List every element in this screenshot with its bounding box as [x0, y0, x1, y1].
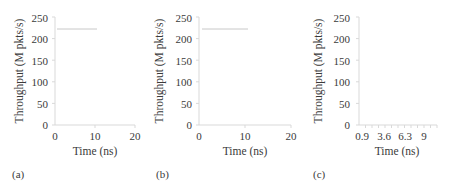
panel-label-c: (c)	[313, 168, 326, 181]
svg-text:250: 250	[32, 12, 49, 24]
svg-text:100: 100	[334, 76, 351, 88]
svg-text:250: 250	[176, 12, 193, 24]
svg-text:200: 200	[176, 33, 193, 45]
panel-a: Throughput (M pkts/s) 0 50 100 150 200 2…	[0, 0, 150, 188]
y-tick-labels: 0 50 100 150 200 250	[176, 12, 193, 132]
svg-text:200: 200	[32, 33, 49, 45]
svg-text:0.9: 0.9	[355, 130, 369, 142]
svg-text:0: 0	[43, 119, 49, 131]
panel-label-b: (b)	[156, 168, 169, 181]
x-tick-labels: 0.9 3.6 6.3 9	[355, 130, 427, 142]
svg-text:3.6: 3.6	[377, 130, 391, 142]
svg-text:100: 100	[32, 76, 49, 88]
x-axis-title: Time (ns)	[375, 145, 420, 158]
svg-text:200: 200	[334, 33, 351, 45]
panel-label-a: (a)	[12, 168, 25, 181]
svg-text:0: 0	[345, 119, 351, 131]
svg-text:0: 0	[196, 130, 202, 142]
x-tick-labels: 0 10 20	[52, 130, 141, 142]
panel-b: Throughput (M pkts/s) 0 50 100 150 200 2…	[150, 0, 300, 188]
svg-text:10: 10	[240, 130, 252, 142]
svg-text:10: 10	[90, 130, 102, 142]
svg-text:250: 250	[334, 12, 351, 24]
svg-text:0: 0	[187, 119, 193, 131]
svg-text:20: 20	[286, 130, 298, 142]
svg-text:50: 50	[37, 98, 49, 110]
axes	[52, 17, 135, 128]
svg-text:100: 100	[176, 76, 193, 88]
y-tick-labels: 0 50 100 150 200 250	[334, 12, 351, 132]
svg-text:0: 0	[52, 130, 58, 142]
chart-b: Throughput (M pkts/s) 0 50 100 150 200 2…	[150, 0, 300, 188]
x-axis-title: Time (ns)	[223, 145, 268, 158]
y-axis-title: Throughput (M pkts/s)	[312, 18, 325, 123]
y-tick-labels: 0 50 100 150 200 250	[32, 12, 49, 132]
x-tick-labels: 0 10 20	[196, 130, 297, 142]
panel-c: Throughput (M pkts/s) 0 50 100 150 200 2…	[300, 0, 451, 188]
svg-text:6.3: 6.3	[398, 130, 412, 142]
axes	[196, 17, 291, 128]
chart-c: Throughput (M pkts/s) 0 50 100 150 200 2…	[300, 0, 451, 188]
svg-text:20: 20	[130, 130, 142, 142]
axes	[356, 17, 437, 128]
svg-text:50: 50	[339, 98, 351, 110]
svg-text:150: 150	[334, 55, 351, 67]
svg-text:50: 50	[181, 98, 193, 110]
svg-text:150: 150	[176, 55, 193, 67]
y-axis-title: Throughput (M pkts/s)	[153, 18, 166, 123]
chart-a: Throughput (M pkts/s) 0 50 100 150 200 2…	[0, 0, 150, 188]
svg-text:9: 9	[421, 130, 427, 142]
x-axis-title: Time (ns)	[73, 145, 118, 158]
y-axis-title: Throughput (M pkts/s)	[13, 18, 26, 123]
svg-text:150: 150	[32, 55, 49, 67]
